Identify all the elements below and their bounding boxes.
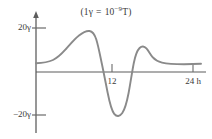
chart-title-open: (1γ <box>80 7 93 17</box>
x-tick-label-24: 24 h <box>176 76 210 86</box>
chart-title: (1γ=10−9T) <box>0 7 212 17</box>
y-tick-label-neg20: −20γ <box>0 109 31 119</box>
plot-canvas <box>0 0 212 139</box>
chart-title-base: 10 <box>105 7 115 17</box>
x-axis-ticks <box>112 64 193 72</box>
y-tick-label-20: 20γ <box>0 22 31 32</box>
x-tick-label-12: 12 <box>99 76 125 86</box>
chart-title-equals: = <box>96 7 102 17</box>
chart-figure: (1γ=10−9T) 20γ −20γ 12 24 h <box>0 0 212 139</box>
chart-title-unit: T) <box>122 7 131 17</box>
data-curve-magnetic-variation <box>36 31 201 116</box>
